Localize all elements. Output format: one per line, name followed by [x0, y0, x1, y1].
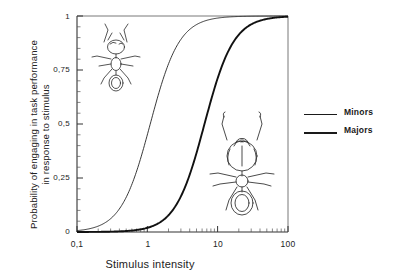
x-tick-label-100: 100: [273, 239, 303, 249]
major-ant-illustration: [210, 112, 274, 215]
curve-majors: [77, 17, 288, 232]
axis-frame: [77, 16, 288, 232]
x-tick-label-1: 1: [133, 239, 163, 249]
x-tick-label-10: 10: [203, 239, 233, 249]
y-axis-title-line2: in response to stimulus: [39, 25, 51, 245]
legend-label-minors: Minors: [344, 107, 373, 117]
legend-line-minors-icon: [304, 114, 337, 115]
legend: Minors Majors: [300, 106, 393, 142]
legend-item-majors: Majors: [300, 124, 393, 142]
y-tick-label-1: 1: [44, 12, 70, 21]
legend-line-majors-icon: [304, 132, 337, 134]
legend-label-majors: Majors: [344, 125, 373, 135]
legend-item-minors: Minors: [300, 106, 393, 124]
curve-minors: [77, 16, 288, 231]
y-axis-title-line1: Probability of engaging in task performa…: [28, 40, 39, 229]
x-axis-title: Stimulus intensity: [0, 258, 300, 270]
x-tick-label-01: 0,1: [62, 239, 92, 249]
logistic-response-chart: 1 0,75 0,5 0,25 0 0,1 1 10 100 Stimulus …: [0, 0, 393, 280]
minor-ant-illustration: [92, 24, 140, 91]
y-axis-title: Probability of engaging in task performa…: [28, 25, 51, 245]
